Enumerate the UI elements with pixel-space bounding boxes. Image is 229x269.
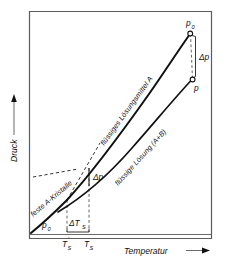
y-axis-arrow-head: [11, 94, 17, 102]
figure-container: Druck Temperatur feste A-Kristalle flüss…: [0, 0, 229, 269]
x-axis-arrow-head: [202, 248, 210, 254]
phase-diagram-figure: Druck Temperatur feste A-Kristalle flüss…: [0, 0, 229, 269]
y-axis-group: Druck: [9, 94, 19, 162]
label-p0-prime: p: [41, 220, 47, 230]
tangent-solid-phase-dashed: [33, 169, 78, 177]
label-p0: p: [185, 18, 191, 28]
y-axis-label: Druck: [9, 139, 19, 162]
label-delta-ts: ΔT: [68, 218, 81, 228]
label-p: p: [193, 83, 199, 93]
label-delta-ts-subscript: S: [82, 224, 86, 230]
label-delta-p-middle: Δp: [92, 172, 104, 182]
label-delta-p-right: Δp: [198, 52, 210, 62]
label-ts-prime-subscript: S: [68, 245, 72, 251]
label-p0-prime-group: p 0 ': [41, 217, 52, 232]
x-axis-label: Temperatur: [124, 246, 169, 256]
marker-p0: [188, 31, 193, 36]
label-ts-subscript: S: [90, 245, 94, 251]
label-delta-ts-group: ΔT S: [68, 218, 86, 230]
marker-p: [190, 77, 195, 82]
label-p0-group: p 0: [185, 18, 196, 30]
curve-fluessige-loesung-ab: [58, 79, 193, 212]
label-p0-prime-subscript: 0: [48, 226, 52, 232]
label-fluessige-loesung-ab: flüssige Lösung (A+B): [113, 127, 168, 187]
label-p0-subscript: 0: [192, 24, 196, 30]
label-fluessiges-loesungsmittel-a: flüssiges Lösungsmittel A: [98, 74, 154, 147]
label-ts-group: T S: [84, 239, 94, 251]
x-axis-group: Temperatur: [124, 246, 210, 256]
guide-line-delta-p-right: [191, 34, 193, 79]
